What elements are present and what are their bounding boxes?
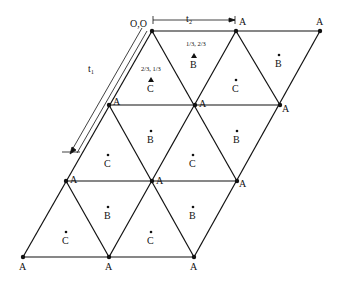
b-sites [107, 53, 281, 208]
svg-text:B: B [104, 210, 111, 221]
svg-text:C: C [147, 235, 154, 246]
t1-label: t₁ [88, 63, 94, 74]
svg-text:C: C [62, 235, 69, 246]
lattice-diagram: t₂ t₁ O,O A A A A A A A A A A A B [0, 0, 345, 286]
svg-text:C: C [232, 83, 239, 94]
svg-text:A: A [113, 96, 121, 107]
svg-text:A: A [239, 16, 247, 27]
svg-text:B: B [233, 134, 240, 145]
c-sites [65, 77, 238, 233]
origin-label: O,O [130, 18, 147, 29]
svg-text:A: A [282, 103, 290, 114]
t1-vector [62, 28, 147, 154]
b-fractional-coords: 1/3, 2/3 [186, 40, 206, 47]
b-labels: B B B B B B [104, 58, 282, 221]
svg-text:C: C [147, 83, 154, 94]
svg-text:A: A [105, 261, 113, 272]
svg-text:B: B [189, 210, 196, 221]
svg-text:A: A [239, 178, 247, 189]
svg-text:B: B [275, 58, 282, 69]
svg-text:A: A [316, 16, 324, 27]
svg-text:A: A [190, 261, 198, 272]
svg-text:A: A [70, 174, 78, 185]
svg-text:C: C [189, 158, 196, 169]
svg-text:A: A [156, 175, 164, 186]
svg-text:B: B [190, 59, 197, 70]
t2-vector [153, 16, 235, 24]
c-fractional-coords: 2/3, 1/3 [141, 65, 161, 72]
t2-label: t₂ [186, 13, 192, 24]
svg-text:C: C [104, 158, 111, 169]
svg-text:A: A [199, 98, 207, 109]
svg-text:B: B [147, 134, 154, 145]
svg-text:A: A [19, 261, 27, 272]
